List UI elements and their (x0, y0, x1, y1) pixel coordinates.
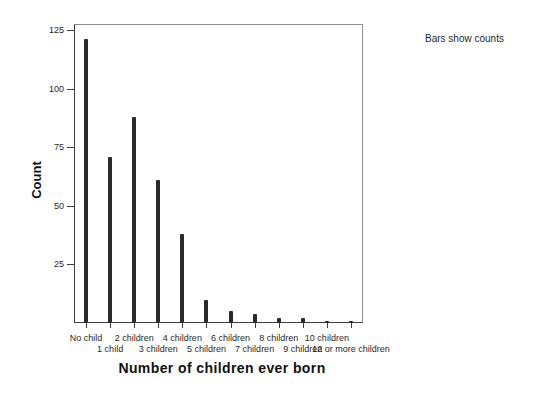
x-tick-label: 6 children (211, 333, 250, 344)
legend-note: Bars show counts (425, 33, 504, 44)
x-tick-label: 4 children (163, 333, 202, 344)
x-tick-label: 1 child (97, 344, 123, 355)
y-tick-label: 125 (30, 24, 64, 36)
y-tick-label: 100 (30, 83, 64, 95)
x-axis-title: Number of children ever born (118, 360, 325, 376)
y-axis-title: Count (29, 161, 44, 199)
y-axis-tick (67, 206, 74, 207)
x-axis-tick (134, 323, 135, 328)
bar (204, 300, 208, 323)
x-axis-tick (86, 323, 87, 328)
y-tick-label: 25 (30, 258, 64, 270)
x-axis-tick (206, 323, 207, 328)
x-tick-label: 3 children (139, 344, 178, 355)
x-tick-label: 5 children (187, 344, 226, 355)
x-tick-label: 7 children (235, 344, 274, 355)
bar (180, 234, 184, 323)
x-axis-tick (255, 323, 256, 328)
x-axis-tick (182, 323, 183, 328)
x-axis-tick (279, 323, 280, 328)
x-tick-label: No child (70, 333, 103, 344)
bar-chart: 255075100125 No child1 child2 children3 … (0, 0, 542, 398)
y-tick-label: 50 (30, 200, 64, 212)
x-tick-label: 2 children (115, 333, 154, 344)
bar (132, 117, 136, 323)
x-tick-label: 10 children (305, 333, 349, 344)
y-axis-tick (67, 147, 74, 148)
x-axis-tick (231, 323, 232, 328)
x-axis-tick (303, 323, 304, 328)
x-axis-tick (158, 323, 159, 328)
x-axis-tick (351, 323, 352, 328)
plot-area (74, 24, 363, 323)
y-axis-tick (67, 89, 74, 90)
x-tick-label: 8 children (259, 333, 298, 344)
x-axis-tick (110, 323, 111, 328)
bar (229, 311, 233, 323)
x-axis-tick (327, 323, 328, 328)
y-axis-tick (67, 30, 74, 31)
bar (84, 39, 88, 323)
bar (156, 180, 160, 323)
x-tick-label: 12 or more children (312, 344, 390, 355)
y-axis-tick (67, 264, 74, 265)
bar (253, 314, 257, 323)
y-tick-label: 75 (30, 141, 64, 153)
bar (108, 157, 112, 323)
